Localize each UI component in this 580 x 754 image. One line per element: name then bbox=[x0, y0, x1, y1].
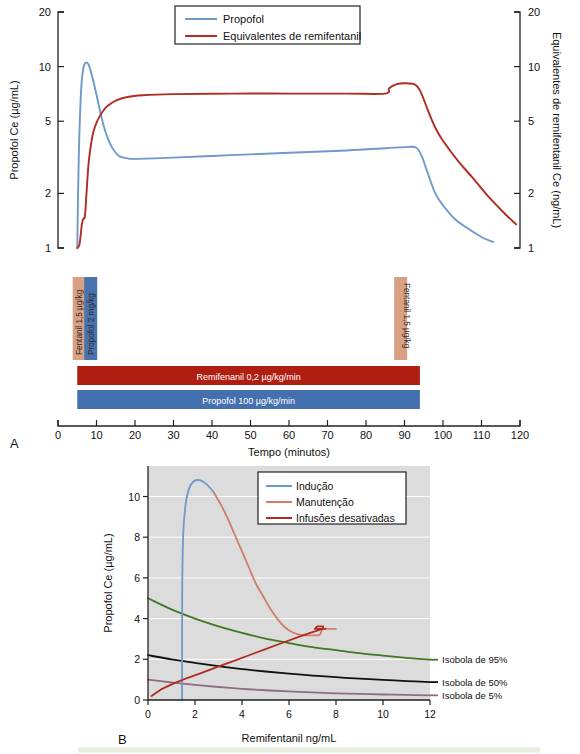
panel-b-y-tick-label: 2 bbox=[134, 653, 140, 665]
panel-a-y-axis-right bbox=[514, 12, 520, 248]
y-tick-label-left: 10 bbox=[39, 61, 51, 73]
legend-label-2: Equivalentes de remifentanil bbox=[223, 30, 361, 42]
infusion-bar-label-2: Propofol 100 µg/kg/min bbox=[202, 396, 295, 406]
isobole-label-3: Isobola de 5% bbox=[442, 690, 503, 701]
panel-b-y-tick-label: 6 bbox=[134, 572, 140, 584]
y-tick-label-left: 2 bbox=[45, 187, 51, 199]
panel-a-y-axis-label-left: Propofol Ce (µg/mL) bbox=[8, 80, 20, 179]
y-tick-label-right: 5 bbox=[528, 115, 534, 127]
x-tick-label: 30 bbox=[167, 429, 179, 441]
infusion-bar-label-1: Remifenanil 0,2 µg/kg/min bbox=[196, 372, 300, 382]
panel-b-y-tick-label: 4 bbox=[134, 613, 140, 625]
bolus-bar-label-3: Fentanil 1,5 µg/kg bbox=[402, 283, 411, 349]
panel-b-y-tick-label: 10 bbox=[128, 491, 140, 503]
legend-label-1: Propofol bbox=[223, 13, 264, 25]
bolus-bar-label-2: Propofol 2 mg/kg bbox=[87, 293, 96, 355]
panel-a-y-axis-left bbox=[58, 12, 64, 248]
panel-b-x-tick-label: 2 bbox=[192, 708, 198, 720]
panel-a-y-axis-label-right: Equivalentes de remifentanil Ce (ng/mL) bbox=[551, 32, 563, 228]
y-tick-label-left: 20 bbox=[39, 6, 51, 18]
figure-svg: 1251020Propofol Ce (µg/mL)1251020Equival… bbox=[0, 0, 580, 754]
y-tick-label-right: 20 bbox=[528, 6, 540, 18]
x-tick-label: 70 bbox=[321, 429, 333, 441]
figure-container: 1251020Propofol Ce (µg/mL)1251020Equival… bbox=[0, 0, 580, 754]
y-tick-label-right: 10 bbox=[528, 61, 540, 73]
panel-b-x-tick-label: 4 bbox=[239, 708, 245, 720]
panel-b-legend-label-1: Indução bbox=[296, 480, 334, 492]
x-tick-label: 90 bbox=[398, 429, 410, 441]
y-tick-label-left: 1 bbox=[45, 242, 51, 254]
panel-b-y-tick-label: 8 bbox=[134, 531, 140, 543]
y-tick-label-right: 2 bbox=[528, 187, 534, 199]
panel-b-x-tick-label: 6 bbox=[286, 708, 292, 720]
panel-a-x-axis-label: Tempo (minutos) bbox=[248, 446, 330, 458]
panel-b-legend-label-3: Infusões desativadas bbox=[296, 512, 395, 524]
panel-b-legend-label-2: Manutenção bbox=[296, 496, 354, 508]
panel-b-y-tick-label: 0 bbox=[134, 694, 140, 706]
x-tick-label: 10 bbox=[90, 429, 102, 441]
panel-b-x-tick-label: 0 bbox=[145, 708, 151, 720]
bolus-bar-label-1: Fentanil 1,5 µg/kg bbox=[75, 289, 84, 355]
x-tick-label: 80 bbox=[360, 429, 372, 441]
panel-b-x-axis-label: Remifentanil ng/mL bbox=[242, 732, 337, 744]
panel-b-y-axis-label: Propofol Ce (µg/mL) bbox=[102, 533, 114, 632]
x-tick-label: 100 bbox=[434, 429, 452, 441]
panel-b-x-tick-label: 8 bbox=[333, 708, 339, 720]
x-tick-label: 120 bbox=[511, 429, 529, 441]
x-tick-label: 0 bbox=[55, 429, 61, 441]
panel-b-x-tick-label: 12 bbox=[424, 708, 436, 720]
panel-a-series-1 bbox=[77, 63, 493, 248]
panel-a-series-2 bbox=[77, 83, 516, 248]
panel-b-x-tick-label: 10 bbox=[377, 708, 389, 720]
panel-b: Isobola de 95%Isobola de 50%Isobola de 5… bbox=[102, 466, 508, 747]
y-tick-label-left: 5 bbox=[45, 115, 51, 127]
panel-a-label: A bbox=[10, 436, 19, 451]
x-tick-label: 110 bbox=[473, 429, 491, 441]
x-tick-label: 40 bbox=[206, 429, 218, 441]
isobole-label-2: Isobola de 50% bbox=[442, 677, 508, 688]
x-tick-label: 60 bbox=[283, 429, 295, 441]
panel-a: 1251020Propofol Ce (µg/mL)1251020Equival… bbox=[8, 6, 563, 458]
x-tick-label: 50 bbox=[244, 429, 256, 441]
y-tick-label-right: 1 bbox=[528, 242, 534, 254]
isobole-label-1: Isobola de 95% bbox=[442, 654, 508, 665]
x-tick-label: 20 bbox=[129, 429, 141, 441]
panel-b-label: B bbox=[118, 732, 127, 747]
